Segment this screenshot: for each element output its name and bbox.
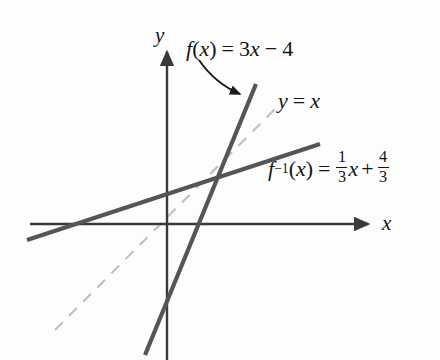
inverse-intercept-denominator: 3 [378,169,388,186]
inverse-operator: + [361,158,373,180]
identity-equation-label: y=x [278,90,320,112]
identity-left: y [278,88,288,113]
inverse-intercept-fraction: 43 [378,149,389,186]
function-intercept: 4 [282,36,293,61]
function-equals-sign: = [222,36,234,61]
inverse-equals-sign: = [318,158,330,180]
callout-arrow-icon [199,60,240,94]
inverse-slope-fraction: 13 [336,149,347,186]
inverse-slope-variable: x [348,158,358,180]
function-close-paren: ) [209,36,216,61]
inverse-function-graph-figure: y x f(x)=3x−4 y=x f−1(x)=13x+43 [0,0,440,360]
identity-right: x [310,88,320,113]
inverse-slope-numerator: 1 [337,149,347,166]
function-slope: 3 [239,36,250,61]
inverse-open-paren: ( [289,158,296,180]
inverse-close-paren: ) [306,158,313,180]
inverse-equation-label: f−1(x)=13x+43 [268,150,390,187]
inverse-intercept-numerator: 4 [378,149,388,166]
function-line [145,84,256,355]
function-slope-variable: x [250,36,260,61]
inverse-variable: x [296,158,306,180]
x-axis-label: x [382,213,391,234]
y-axis-label: y [155,25,164,46]
inverse-slope-denominator: 3 [337,169,347,186]
function-operator: − [265,36,277,61]
function-equation-label: f(x)=3x−4 [186,38,293,60]
inverse-exponent: −1 [274,162,289,176]
identity-equals-sign: = [293,88,305,113]
function-variable: x [199,36,209,61]
